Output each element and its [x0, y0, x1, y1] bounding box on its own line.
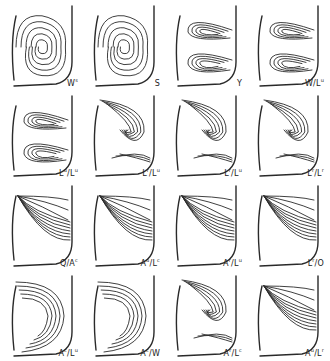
flow-panel-p7: Lr/Lu: [166, 92, 248, 182]
panel-label: W/Lu: [305, 77, 324, 88]
flow-panel-p3: Y: [166, 2, 248, 92]
panel-label: Ar/Lc: [224, 347, 242, 358]
flow-panel-p13: Ac/Lu: [2, 272, 84, 361]
flow-panel-p12: Lr/O: [248, 182, 330, 272]
flow-panel-p1: Ws: [2, 2, 84, 92]
flow-pattern-grid: WsSYW/LuLu/LuLr/LuLr/LuLr/LrQ/AcAu/LcAr/…: [0, 0, 330, 361]
streamline-sketch: [84, 2, 166, 92]
flow-panel-p8: Lr/Lr: [248, 92, 330, 182]
flow-panel-p9: Q/Ac: [2, 182, 84, 272]
panel-label: Ar/Lu: [223, 257, 242, 268]
panel-label: Ac/Lu: [58, 347, 78, 358]
panel-label: Lr/Lu: [224, 167, 242, 178]
panel-label: Lr/O: [308, 257, 324, 268]
panel-label: Q/Ac: [60, 257, 78, 268]
panel-label: S: [155, 79, 160, 88]
flow-panel-p15: Ar/Lc: [166, 272, 248, 361]
panel-label: Ac/W: [140, 347, 160, 358]
panel-label: Au/Lr: [305, 347, 324, 358]
flow-panel-p4: W/Lu: [248, 2, 330, 92]
flow-panel-p2: S: [84, 2, 166, 92]
flow-panel-p16: Au/Lr: [248, 272, 330, 361]
flow-panel-p5: Lu/Lu: [2, 92, 84, 182]
flow-panel-p6: Lr/Lu: [84, 92, 166, 182]
flow-panel-p10: Au/Lc: [84, 182, 166, 272]
flow-panel-p11: Ar/Lu: [166, 182, 248, 272]
panel-label: Lr/Lu: [142, 167, 160, 178]
panel-label: Lr/Lr: [307, 167, 324, 178]
panel-label: Lu/Lu: [59, 167, 78, 178]
streamline-sketch: [166, 2, 248, 92]
panel-label: Y: [237, 79, 242, 88]
flow-panel-p14: Ac/W: [84, 272, 166, 361]
panel-label: Ws: [67, 77, 78, 88]
panel-label: Au/Lc: [140, 257, 160, 268]
